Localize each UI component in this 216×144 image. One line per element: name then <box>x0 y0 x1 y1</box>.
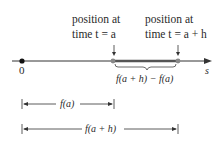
left-arrow-icon <box>23 102 28 106</box>
origin-dot <box>19 58 24 63</box>
point-a <box>111 59 116 64</box>
brace-label: f(a + h) − f(a) <box>116 72 173 85</box>
point-a-label-line1: position at <box>72 13 120 26</box>
right-arrow-icon <box>172 127 177 131</box>
right-arrow-icon <box>108 102 113 106</box>
left-arrow-icon <box>23 127 28 131</box>
point-a-plus-h-label-line1: position at <box>145 13 193 26</box>
point-a-label-line2: time t = a <box>72 28 116 41</box>
origin-label: 0 <box>19 64 25 77</box>
arrow-a-plus-h-head-icon <box>176 52 180 56</box>
distance-fa-label: f(a) <box>60 97 74 110</box>
distance-fah-label: f(a + h) <box>85 122 116 135</box>
arrow-a-head-icon <box>112 52 116 56</box>
brace-icon <box>115 64 176 70</box>
point-a-plus-h-label-line2: time t = a + h <box>145 28 207 41</box>
axis-label: s <box>205 64 209 77</box>
point-a-plus-h <box>176 59 181 64</box>
